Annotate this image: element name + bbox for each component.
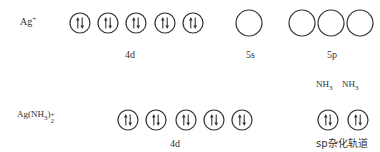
orbital-box (318, 10, 344, 36)
ligand-label-1: NH3 (316, 80, 333, 89)
complex-ion-label: Ag(NH3)+2 (17, 110, 56, 119)
orbital-box (176, 110, 196, 130)
ligand-label-2: NH3 (342, 80, 359, 89)
ligand-formula: NH (342, 79, 355, 89)
ligand-subscript: 3 (329, 84, 333, 92)
ligand-formula: NH (316, 79, 329, 89)
orbital-box (98, 13, 118, 33)
orbital-box (204, 110, 224, 130)
complex-formula-main: Ag(NH (17, 109, 44, 119)
orbital-box (118, 110, 138, 130)
orbital-circle-icon (70, 13, 90, 33)
orbital-box (232, 110, 252, 130)
ag-ion-label: Ag+ (20, 17, 36, 27)
cut-off-caption: …… (0, 145, 20, 152)
orbital-circle-icon (204, 110, 224, 130)
orbital-box (347, 10, 373, 36)
label-5s: 5s (246, 50, 255, 60)
orbital-box (289, 10, 315, 36)
orbital-circle-icon (183, 13, 203, 33)
orbital-circle-icon (347, 10, 373, 36)
orbital-box (318, 110, 338, 130)
orbital-box (183, 13, 203, 33)
label-sp-hybrid: sp杂化轨道 (316, 139, 368, 149)
ag-symbol: Ag (20, 16, 32, 27)
label-4d-bottom: 4d (170, 139, 180, 149)
orbital-circle-icon (118, 110, 138, 130)
orbital-circle-icon (348, 110, 368, 130)
charge-superscript: + (32, 15, 36, 23)
orbital-circle-icon (98, 13, 118, 33)
orbital-circle-icon (289, 10, 315, 36)
label-5p: 5p (327, 50, 337, 60)
orbital-box (70, 13, 90, 33)
orbital-circle-icon (155, 13, 175, 33)
orbital-circle-icon (318, 10, 344, 36)
orbital-circle-icon (232, 110, 252, 130)
orbital-box (236, 10, 262, 36)
orbital-circle-icon (146, 110, 166, 130)
orbital-diagram (0, 0, 380, 152)
ligand-subscript: 3 (355, 84, 359, 92)
label-4d-top: 4d (125, 50, 135, 60)
orbital-circle-icon (126, 13, 146, 33)
orbital-circle-icon (318, 110, 338, 130)
orbital-circle-icon (176, 110, 196, 130)
orbital-box (146, 110, 166, 130)
orbital-box (155, 13, 175, 33)
orbital-circle-icon (236, 10, 262, 36)
orbital-box (126, 13, 146, 33)
orbital-box (348, 110, 368, 130)
